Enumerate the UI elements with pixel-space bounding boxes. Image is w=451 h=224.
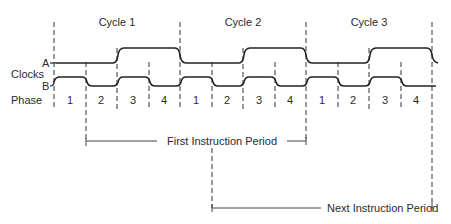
cycle-2-label: Cycle 2	[225, 16, 262, 28]
phase-number: 4	[413, 94, 419, 106]
phase-number: 2	[350, 94, 356, 106]
clock-b-leader	[50, 82, 54, 86]
phase-number: 3	[256, 94, 262, 106]
phase-number: 1	[193, 94, 199, 106]
cycle-1-label: Cycle 1	[99, 16, 136, 28]
phase-label: Phase	[11, 94, 42, 106]
phase-number: 3	[130, 94, 136, 106]
clock-b-label: B	[42, 80, 49, 92]
phase-number: 4	[161, 94, 167, 106]
clocks-label: Clocks	[11, 68, 45, 80]
next-instruction-label: Next Instruction Period	[327, 202, 438, 214]
phase-number: 2	[224, 94, 230, 106]
cycle-3-label: Cycle 3	[351, 16, 388, 28]
first-instruction-label: First Instruction Period	[167, 135, 277, 147]
phase-number: 2	[98, 94, 104, 106]
phase-number: 1	[319, 94, 325, 106]
clock-timing-diagram: Cycle 1 Cycle 2 Cycle 3 A Clocks B Phase…	[0, 0, 451, 224]
phase-number: 1	[67, 94, 73, 106]
clock-b-waveform	[54, 77, 436, 86]
phase-number: 4	[287, 94, 293, 106]
clock-a-waveform	[56, 48, 438, 63]
phase-number: 3	[382, 94, 388, 106]
